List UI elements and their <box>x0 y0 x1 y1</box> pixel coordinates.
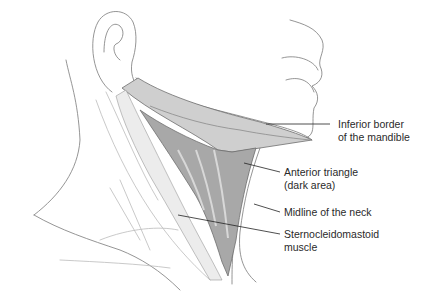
label-midline-neck: Midline of the neck <box>284 206 372 219</box>
label-line: Anterior triangle <box>284 166 358 179</box>
label-line: muscle <box>284 241 379 254</box>
label-inferior-border-mandible: Inferior border of the mandible <box>338 118 410 143</box>
label-line: (dark area) <box>284 179 358 192</box>
back-of-neck-outline <box>34 60 80 215</box>
label-line: Midline of the neck <box>284 206 372 219</box>
leader-midline <box>254 204 280 212</box>
label-line: Inferior border <box>338 118 410 131</box>
label-sternocleidomastoid: Sternocleidomastoid muscle <box>284 228 379 253</box>
label-line: Sternocleidomastoid <box>284 228 379 241</box>
ear-inner <box>104 24 123 60</box>
label-line: of the mandible <box>338 131 410 144</box>
label-anterior-triangle: Anterior triangle (dark area) <box>284 166 358 191</box>
trapezius-outline <box>34 215 180 290</box>
